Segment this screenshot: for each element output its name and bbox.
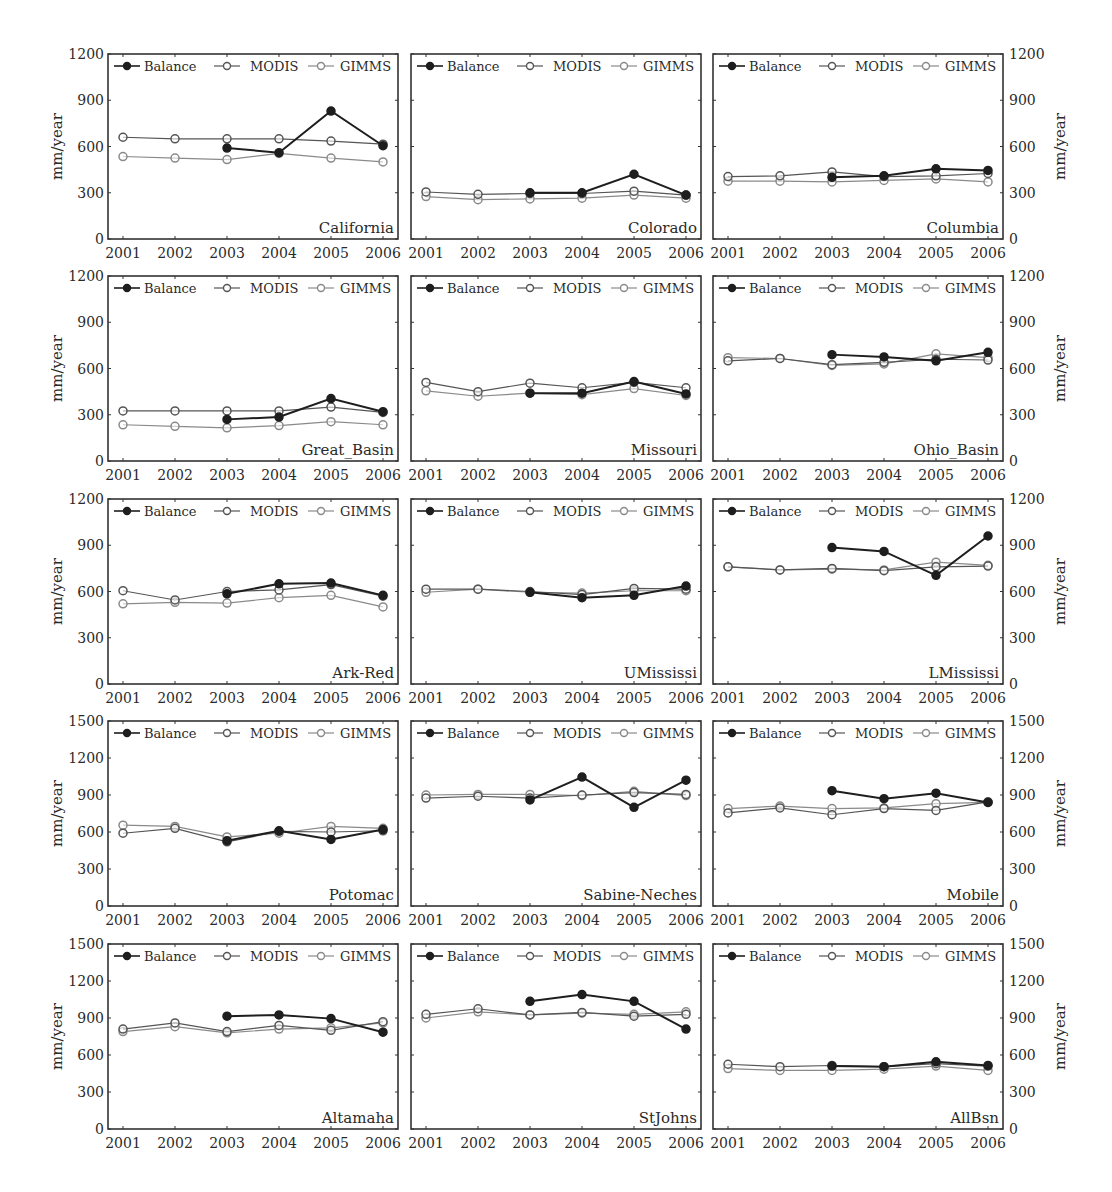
y-tick-label: 1200 — [68, 46, 104, 62]
plot-frame — [411, 276, 701, 461]
balance-point — [526, 389, 534, 397]
legend-label: MODIS — [250, 949, 298, 964]
x-tick-label: 2002 — [157, 1135, 193, 1151]
x-tick-label: 2006 — [365, 245, 401, 261]
x-tick-label: 2006 — [365, 690, 401, 706]
x-tick-label: 2005 — [616, 1135, 652, 1151]
legend-label: GIMMS — [340, 281, 391, 296]
balance-marker-icon — [124, 285, 131, 292]
balance-point — [984, 532, 992, 540]
x-tick-label: 2006 — [668, 467, 704, 483]
y-tick-label: 1500 — [1009, 713, 1045, 729]
gimms-marker-icon — [318, 63, 325, 70]
x-tick-label: 2003 — [209, 245, 245, 261]
x-tick-label: 2001 — [710, 245, 746, 261]
chart-panel-columbia: 03006009001200200120022003200420052006mm… — [710, 46, 1069, 261]
x-tick-label: 2004 — [866, 1135, 902, 1151]
balance-point — [223, 590, 231, 598]
chart-panel-mobile: 0300600900120015002001200220032004200520… — [710, 713, 1069, 928]
chart-panel-ohio-basin: 03006009001200200120022003200420052006mm… — [710, 268, 1069, 483]
x-tick-label: 2001 — [408, 912, 444, 928]
balance-point — [223, 1012, 231, 1020]
x-tick-label: 2003 — [814, 1135, 850, 1151]
gimms-point — [275, 594, 283, 602]
modis-point — [119, 587, 127, 595]
panel-title: Ark-Red — [331, 664, 394, 682]
gimms-point — [223, 156, 231, 164]
modis-marker-icon — [829, 63, 836, 70]
gimms-marker-icon — [318, 730, 325, 737]
balance-point — [630, 803, 638, 811]
balance-point — [630, 378, 638, 386]
modis-point — [275, 1021, 283, 1029]
legend-label: Balance — [749, 281, 802, 296]
balance-point — [984, 348, 992, 356]
y-tick-label: 0 — [1009, 453, 1018, 469]
plot-frame — [108, 944, 398, 1129]
x-tick-label: 2002 — [460, 912, 496, 928]
legend: BalanceMODISGIMMS — [719, 504, 996, 519]
legend: BalanceMODISGIMMS — [114, 726, 391, 741]
balance-point — [984, 166, 992, 174]
y-axis-label: mm/year — [1051, 112, 1069, 180]
legend-label: GIMMS — [340, 949, 391, 964]
legend-label: GIMMS — [643, 949, 694, 964]
plot-frame — [713, 276, 1003, 461]
y-axis-label: mm/year — [48, 112, 66, 180]
gimms-marker-icon — [621, 285, 628, 292]
legend: BalanceMODISGIMMS — [114, 504, 391, 519]
gimms-marker-icon — [621, 508, 628, 515]
y-tick-label: 1500 — [68, 713, 104, 729]
modis-point — [724, 1060, 732, 1068]
balance-point — [327, 835, 335, 843]
y-axis-label: mm/year — [1051, 1002, 1069, 1070]
x-tick-label: 2004 — [261, 912, 297, 928]
gimms-marker-icon — [318, 508, 325, 515]
legend-label: MODIS — [250, 59, 298, 74]
balance-point — [932, 357, 940, 365]
modis-point — [171, 135, 179, 143]
x-tick-label: 2005 — [918, 690, 954, 706]
modis-point — [379, 1018, 387, 1026]
y-tick-label: 900 — [1009, 787, 1036, 803]
x-tick-label: 2002 — [762, 1135, 798, 1151]
plot-frame — [713, 499, 1003, 684]
y-tick-label: 1200 — [1009, 491, 1045, 507]
y-tick-label: 300 — [1009, 407, 1036, 423]
modis-point — [275, 135, 283, 143]
legend-label: MODIS — [855, 726, 903, 741]
y-tick-label: 0 — [95, 231, 104, 247]
gimms-marker-icon — [621, 730, 628, 737]
gimms-point — [379, 603, 387, 611]
gimms-line — [123, 153, 383, 161]
legend-label: GIMMS — [945, 949, 996, 964]
legend-label: MODIS — [250, 281, 298, 296]
balance-marker-icon — [729, 730, 736, 737]
gimms-point — [984, 178, 992, 186]
legend: BalanceMODISGIMMS — [417, 59, 694, 74]
x-tick-label: 2001 — [710, 467, 746, 483]
y-tick-label: 300 — [77, 185, 104, 201]
gimms-marker-icon — [318, 953, 325, 960]
x-tick-label: 2001 — [105, 467, 141, 483]
modis-point — [474, 190, 482, 198]
legend-label: GIMMS — [945, 281, 996, 296]
gimms-point — [275, 422, 283, 430]
x-tick-label: 2003 — [814, 912, 850, 928]
balance-point — [578, 389, 586, 397]
x-tick-label: 2002 — [762, 245, 798, 261]
modis-line — [426, 1009, 686, 1016]
modis-point — [630, 789, 638, 797]
balance-marker-icon — [124, 953, 131, 960]
x-tick-label: 2004 — [564, 1135, 600, 1151]
modis-point — [422, 1010, 430, 1018]
chart-panel-stjohns: 200120022003200420052006StJohnsBalanceMO… — [408, 944, 704, 1151]
plot-frame — [108, 276, 398, 461]
balance-line — [832, 1062, 988, 1067]
gimms-point — [119, 600, 127, 608]
balance-point — [275, 149, 283, 157]
chart-panel-altamaha: 0300600900120015002001200220032004200520… — [48, 936, 401, 1151]
balance-point — [682, 582, 690, 590]
modis-point — [223, 1028, 231, 1036]
x-tick-label: 2004 — [866, 690, 902, 706]
